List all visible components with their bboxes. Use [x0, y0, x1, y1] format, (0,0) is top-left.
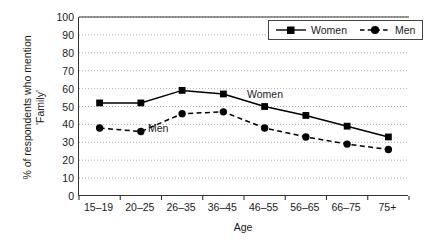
data-point-men[interactable] [96, 124, 103, 131]
data-point-women[interactable] [261, 103, 268, 110]
data-point-women[interactable] [220, 91, 227, 98]
x-axis-tick-label: 75+ [359, 201, 415, 213]
legend-label-men: Men [395, 24, 415, 36]
series-annotation-women: Women [247, 88, 283, 100]
data-point-women[interactable] [96, 100, 103, 107]
data-point-women[interactable] [302, 112, 309, 119]
data-point-men[interactable] [220, 108, 227, 115]
legend-swatch-women-icon [276, 25, 306, 35]
data-point-women[interactable] [179, 87, 186, 94]
data-point-men[interactable] [261, 124, 268, 131]
y-axis-tick-label: 60 [40, 83, 74, 95]
legend-swatch-men-icon [360, 25, 390, 35]
data-point-men[interactable] [343, 140, 350, 147]
y-axis-tick-label: 90 [40, 29, 74, 41]
y-axis-tick-label: 30 [40, 136, 74, 148]
y-axis-tick-label: 0 [40, 190, 74, 202]
data-point-women[interactable] [137, 100, 144, 107]
y-axis-tick-labels: 0102030405060708090100 [40, 10, 74, 203]
data-point-men[interactable] [385, 146, 392, 153]
data-point-women[interactable] [344, 123, 351, 130]
y-axis-tick-label: 70 [40, 65, 74, 77]
chart-container: % of respondents who mention 'Family' 01… [0, 0, 430, 247]
data-point-men[interactable] [178, 110, 185, 117]
x-axis-tick-labels: 15–1920–2526–3536–4546–5556–6566–7575+ [78, 201, 408, 217]
data-point-men[interactable] [137, 128, 144, 135]
legend-item-men[interactable]: Men [360, 24, 415, 36]
chart-legend: Women Men [268, 20, 423, 40]
legend-item-women[interactable]: Women [276, 24, 347, 36]
data-point-women[interactable] [385, 134, 392, 141]
x-axis-title: Age [78, 221, 408, 233]
data-point-men[interactable] [302, 133, 309, 140]
y-axis-tick-label: 20 [40, 154, 74, 166]
y-axis-tick-label: 100 [40, 11, 74, 23]
legend-label-women: Women [311, 24, 347, 36]
y-axis-tick-label: 40 [40, 118, 74, 130]
plot-area [78, 17, 408, 196]
plot-svg [79, 17, 409, 196]
y-axis-tick-label: 10 [40, 172, 74, 184]
series-annotation-men: Men [148, 122, 168, 134]
y-axis-tick-label: 50 [40, 101, 74, 113]
y-axis-tick-label: 80 [40, 47, 74, 59]
